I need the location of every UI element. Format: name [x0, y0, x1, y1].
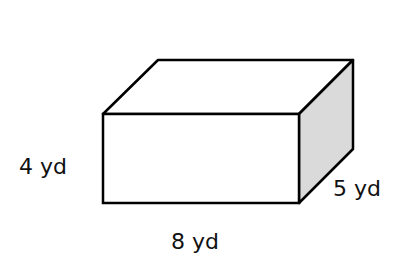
prism-front-face: [103, 114, 299, 203]
height-label: 4 yd: [19, 156, 67, 178]
width-label: 5 yd: [333, 178, 381, 200]
prism-diagram: 4 yd 8 yd 5 yd: [0, 0, 409, 258]
prism-drawing: [0, 0, 409, 258]
length-label: 8 yd: [171, 231, 219, 253]
